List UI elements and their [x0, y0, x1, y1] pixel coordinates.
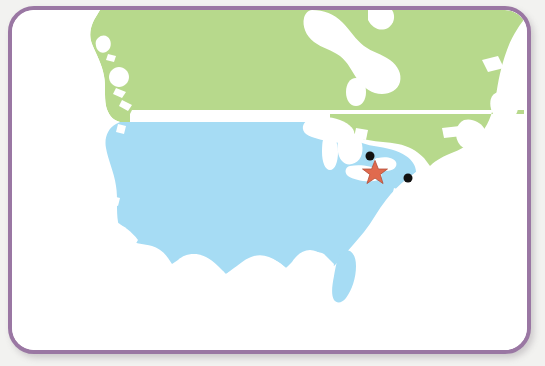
vancouver-island [109, 67, 129, 87]
us-landmass [105, 122, 416, 274]
region-united-states [88, 117, 432, 302]
newfoundland-sea [490, 91, 518, 120]
north-america-map-graphic [12, 10, 527, 350]
map-card [8, 6, 531, 354]
cape-cod-gap [418, 166, 432, 174]
hudson-bay-james-arm [346, 78, 366, 106]
georgian-bay [354, 128, 368, 140]
map-canvas [12, 10, 527, 350]
gaspe-notch [442, 126, 462, 138]
